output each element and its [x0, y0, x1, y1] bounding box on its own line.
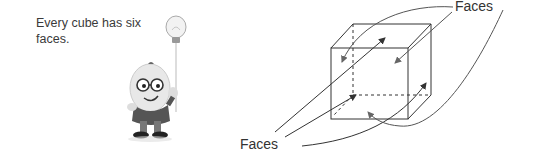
face-pointer-arrows	[275, 7, 503, 146]
cube-faces-diagram	[240, 0, 535, 163]
faces-label-top: Faces	[455, 0, 493, 14]
mascot-lightbulb-icon	[110, 10, 190, 150]
faces-label-bottom: Faces	[240, 136, 278, 152]
